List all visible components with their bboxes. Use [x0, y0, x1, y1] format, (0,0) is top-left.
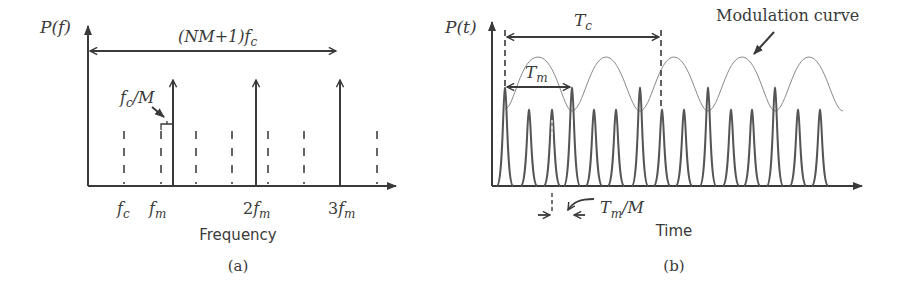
x-axis-label: Time: [655, 222, 693, 240]
panel-b: P(t): [444, 6, 862, 275]
figure: P(f) (NM+1)fc fc/M fc fm 2fm 3fm Frequen…: [0, 0, 910, 297]
tm-over-m-label: Tm/M: [600, 198, 644, 221]
tick-fc: fc: [116, 199, 130, 221]
tick-3fm: 3fm: [328, 199, 356, 221]
x-axis-label: Frequency: [199, 226, 277, 244]
y-axis-label: P(t): [444, 17, 477, 37]
panel-a: P(f) (NM+1)fc fc/M fc fm 2fm 3fm Frequen…: [39, 17, 396, 275]
spacing-label: fc/M: [119, 88, 155, 110]
tc-label: Tc: [574, 10, 592, 33]
tick-fm: fm: [148, 199, 166, 221]
spacing-pointer: [152, 107, 164, 117]
modulation-curve: [505, 57, 843, 111]
modulation-pointer: [754, 32, 774, 54]
tm-label: Tm: [525, 62, 548, 85]
tm-over-m-marker: [538, 193, 594, 215]
caption-a: (a): [228, 257, 249, 275]
spacing-bracket: [161, 121, 173, 130]
span-label: (NM+1)fc: [178, 27, 257, 49]
y-axis-label: P(f): [39, 17, 71, 37]
caption-b: (b): [663, 257, 684, 275]
pulse-train: [497, 88, 828, 186]
modulation-curve-label: Modulation curve: [716, 6, 859, 25]
tick-2fm: 2fm: [243, 199, 271, 221]
